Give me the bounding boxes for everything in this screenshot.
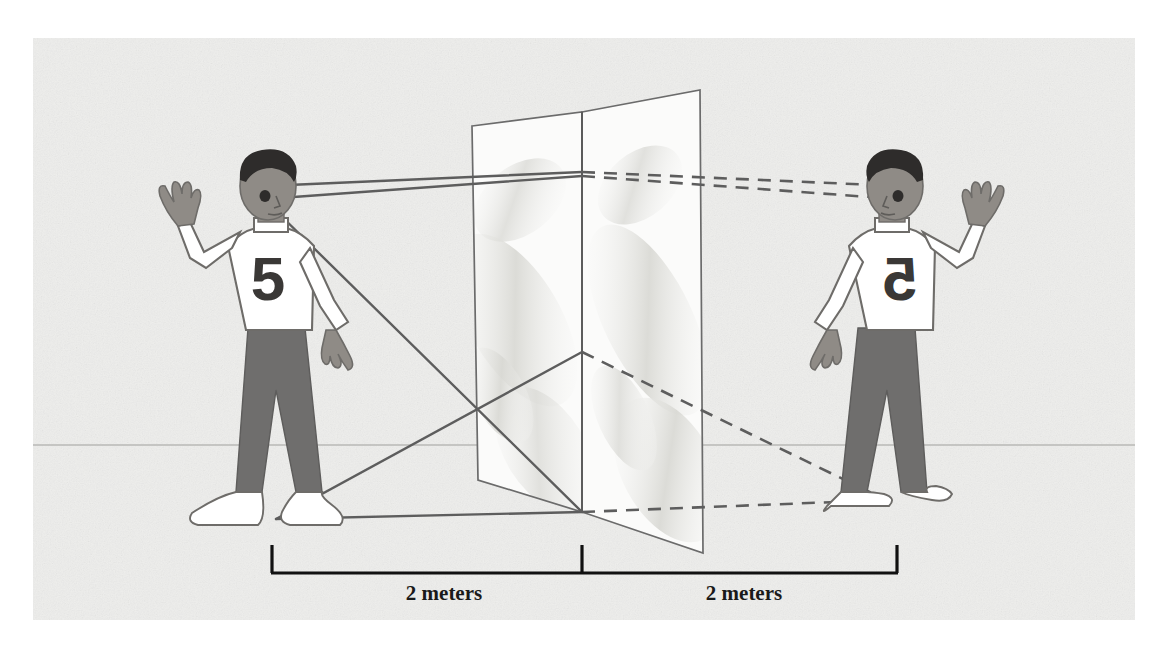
mirror-diagram-root: 5 5 [0,0,1173,657]
measure-label-left: 2 meters [406,581,482,605]
measure-label-right: 2 meters [706,581,782,605]
mirror-image-shirt-number: 5 [883,244,917,313]
real-person-eye [260,190,271,202]
mirror-image-eye [893,190,904,202]
real-person-shirt-number: 5 [251,244,285,313]
diagram-canvas: 5 5 [0,0,1173,657]
